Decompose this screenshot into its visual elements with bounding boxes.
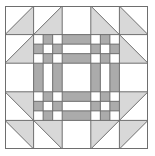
chain-square bbox=[100, 35, 110, 45]
chain-square bbox=[34, 44, 44, 54]
chain-square bbox=[43, 35, 53, 45]
chain-square bbox=[53, 101, 63, 111]
chain-strip-band bbox=[62, 111, 91, 121]
chain-square bbox=[110, 101, 120, 111]
chain-strip-band bbox=[62, 54, 91, 64]
quilt-block-diagram bbox=[5, 6, 148, 149]
chain-strip-band bbox=[62, 92, 91, 102]
chain-strip-band bbox=[91, 63, 101, 92]
chain-square bbox=[100, 54, 110, 64]
chain-square bbox=[110, 44, 120, 54]
quilt-block bbox=[5, 6, 148, 149]
chain-strip-band bbox=[53, 63, 63, 92]
chain-square bbox=[53, 44, 63, 54]
chain-square bbox=[91, 44, 101, 54]
chain-strip-band bbox=[62, 35, 91, 45]
chain-square bbox=[91, 101, 101, 111]
chain-square bbox=[43, 54, 53, 64]
chain-square bbox=[100, 92, 110, 102]
chain-square bbox=[43, 111, 53, 121]
chain-strip-band bbox=[34, 63, 44, 92]
chain-square bbox=[34, 101, 44, 111]
chain-square bbox=[100, 111, 110, 121]
chain-strip-band bbox=[110, 63, 120, 92]
chain-square bbox=[43, 92, 53, 102]
